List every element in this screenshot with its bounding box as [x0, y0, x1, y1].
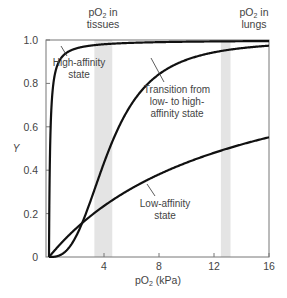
- y-tick-label: 0.6: [23, 121, 38, 133]
- annotation-low-affinity: Low-affinity state: [140, 184, 190, 221]
- lungs-band-label: pO2 in lungs: [239, 6, 268, 30]
- oxygen-binding-chart: pO2 in tissues pO2 in lungs 00.20.40.60.…: [0, 0, 287, 298]
- svg-text:low- to high-: low- to high-: [150, 96, 204, 107]
- svg-text:affinity state: affinity state: [150, 108, 204, 119]
- y-tick-label: 0: [32, 251, 38, 263]
- svg-text:High-affinity: High-affinity: [53, 57, 106, 68]
- tissues-band-label: pO2 in tissues: [87, 6, 120, 30]
- x-tick-label: 8: [156, 260, 162, 272]
- y-tick-label: 0.8: [23, 77, 38, 89]
- annotation-transition: Transition from low- to high- affinity s…: [144, 58, 210, 119]
- x-axis-ticks: 481216: [101, 253, 275, 272]
- y-axis-label: Y: [13, 143, 21, 154]
- svg-text:Transition from: Transition from: [144, 84, 210, 95]
- x-tick-label: 12: [208, 260, 220, 272]
- svg-text:tissues: tissues: [87, 18, 120, 30]
- svg-text:lungs: lungs: [241, 18, 266, 30]
- x-tick-label: 4: [101, 260, 107, 272]
- y-tick-label: 0.2: [23, 208, 38, 220]
- x-axis-label: pO2 (kPa): [135, 274, 181, 287]
- svg-text:state: state: [68, 69, 90, 80]
- svg-text:Low-affinity: Low-affinity: [140, 198, 190, 209]
- y-tick-label: 1.0: [23, 34, 38, 46]
- y-tick-label: 0.4: [23, 164, 38, 176]
- x-tick-label: 16: [263, 260, 275, 272]
- svg-text:state: state: [154, 210, 176, 221]
